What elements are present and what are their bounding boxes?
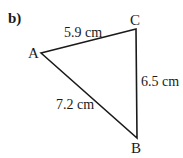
vertex-a-label: A bbox=[28, 45, 39, 62]
side-ab-length: 7.2 cm bbox=[56, 97, 94, 113]
vertex-c-label: C bbox=[130, 12, 140, 29]
side-cb-length: 6.5 cm bbox=[141, 74, 179, 90]
part-label: b) bbox=[8, 10, 21, 27]
side-ac-length: 5.9 cm bbox=[64, 25, 102, 41]
triangle-abc bbox=[41, 29, 137, 138]
vertex-b-label: B bbox=[131, 140, 141, 157]
